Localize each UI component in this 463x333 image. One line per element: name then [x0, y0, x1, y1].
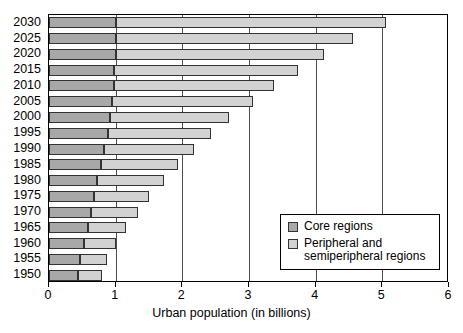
- bar-segment-core-1995: [49, 128, 108, 139]
- bar-row: [49, 112, 449, 123]
- y-axis-label-1985: 1985: [13, 158, 41, 170]
- bar-segment-peripheral-1975: [94, 191, 149, 202]
- bar-row: [49, 49, 449, 60]
- y-axis-label-2030: 2030: [13, 16, 41, 28]
- bar-segment-peripheral-2015: [114, 65, 297, 76]
- y-axis-label-1970: 1970: [13, 205, 41, 217]
- legend-label-core: Core regions: [304, 220, 373, 233]
- bar-segment-peripheral-2020: [116, 49, 324, 60]
- bar-row: [49, 270, 449, 281]
- bar-segment-peripheral-1980: [97, 175, 164, 186]
- legend: Core regions Peripheral and semiperipher…: [280, 214, 440, 270]
- bar-segment-peripheral-1990: [104, 144, 194, 155]
- y-axis-label-1950: 1950: [13, 268, 41, 280]
- y-axis-label-1990: 1990: [13, 142, 41, 154]
- bar-row: [49, 17, 449, 28]
- bar-segment-core-1960: [49, 238, 84, 249]
- y-axis-label-1965: 1965: [13, 221, 41, 233]
- x-tick-label-3: 3: [233, 288, 263, 302]
- bar-row: [49, 159, 449, 170]
- x-tick-label-2: 2: [166, 288, 196, 302]
- bar-row: [49, 191, 449, 202]
- bar-row: [49, 175, 449, 186]
- y-axis-label-2015: 2015: [13, 63, 41, 75]
- bar-segment-core-1970: [49, 207, 91, 218]
- bar-segment-core-2020: [49, 49, 116, 60]
- x-axis-tick-labels: 0123456: [0, 288, 463, 304]
- x-tick-5: [381, 282, 382, 287]
- y-axis-label-1960: 1960: [13, 237, 41, 249]
- bar-segment-core-2005: [49, 96, 112, 107]
- bar-segment-core-1950: [49, 270, 78, 281]
- x-tick-4: [315, 282, 316, 287]
- bar-segment-peripheral-1970: [91, 207, 138, 218]
- bar-segment-peripheral-1955: [80, 254, 107, 265]
- bar-segment-peripheral-1965: [88, 222, 126, 233]
- bar-segment-peripheral-2005: [112, 96, 253, 107]
- bar-segment-core-2000: [49, 112, 110, 123]
- bar-segment-core-1955: [49, 254, 80, 265]
- x-tick-2: [181, 282, 182, 287]
- bar-segment-core-2010: [49, 80, 114, 91]
- bar-segment-core-2015: [49, 65, 114, 76]
- y-axis-label-2005: 2005: [13, 95, 41, 107]
- bar-segment-peripheral-2000: [110, 112, 229, 123]
- y-axis-label-1995: 1995: [13, 126, 41, 138]
- bar-segment-peripheral-1995: [108, 128, 211, 139]
- y-axis-label-1975: 1975: [13, 189, 41, 201]
- bar-segment-peripheral-2010: [114, 80, 274, 91]
- x-tick-1: [115, 282, 116, 287]
- legend-label-peripheral: Peripheral and semiperipheral regions: [304, 237, 425, 263]
- bar-segment-core-2030: [49, 17, 116, 28]
- bar-row: [49, 33, 449, 44]
- y-axis-label-2000: 2000: [13, 110, 41, 122]
- bar-segment-peripheral-1985: [101, 159, 178, 170]
- legend-swatch-core-icon: [288, 222, 298, 232]
- bar-row: [49, 128, 449, 139]
- bar-segment-core-1975: [49, 191, 94, 202]
- y-axis-label-1980: 1980: [13, 174, 41, 186]
- x-axis-title: Urban population (in billions): [0, 306, 463, 320]
- x-tick-label-5: 5: [366, 288, 396, 302]
- bar-segment-core-1985: [49, 159, 101, 170]
- bar-segment-peripheral-2030: [116, 17, 385, 28]
- legend-item-peripheral: Peripheral and semiperipheral regions: [288, 237, 433, 263]
- y-axis-labels: 2030202520202015201020052000199519901985…: [0, 14, 44, 282]
- bar-segment-core-1965: [49, 222, 88, 233]
- bar-segment-peripheral-2025: [116, 33, 353, 44]
- bar-row: [49, 65, 449, 76]
- x-tick-label-1: 1: [100, 288, 130, 302]
- y-axis-label-2020: 2020: [13, 47, 41, 59]
- x-tick-0: [48, 282, 49, 287]
- y-axis-label-2025: 2025: [13, 32, 41, 44]
- x-tick-3: [248, 282, 249, 287]
- bar-segment-peripheral-1950: [78, 270, 103, 281]
- bar-segment-core-2025: [49, 33, 116, 44]
- y-axis-label-1955: 1955: [13, 252, 41, 264]
- legend-swatch-peripheral-icon: [288, 239, 298, 249]
- bar-row: [49, 144, 449, 155]
- y-axis-label-2010: 2010: [13, 79, 41, 91]
- bar-row: [49, 96, 449, 107]
- bar-segment-core-1980: [49, 175, 97, 186]
- x-tick-6: [448, 282, 449, 287]
- x-tick-label-4: 4: [300, 288, 330, 302]
- bar-segment-core-1990: [49, 144, 104, 155]
- bar-row: [49, 80, 449, 91]
- x-tick-label-6: 6: [433, 288, 463, 302]
- x-tick-label-0: 0: [33, 288, 63, 302]
- bar-segment-peripheral-1960: [84, 238, 116, 249]
- legend-item-core: Core regions: [288, 220, 433, 233]
- stacked-bar-chart: 2030202520202015201020052000199519901985…: [0, 0, 463, 333]
